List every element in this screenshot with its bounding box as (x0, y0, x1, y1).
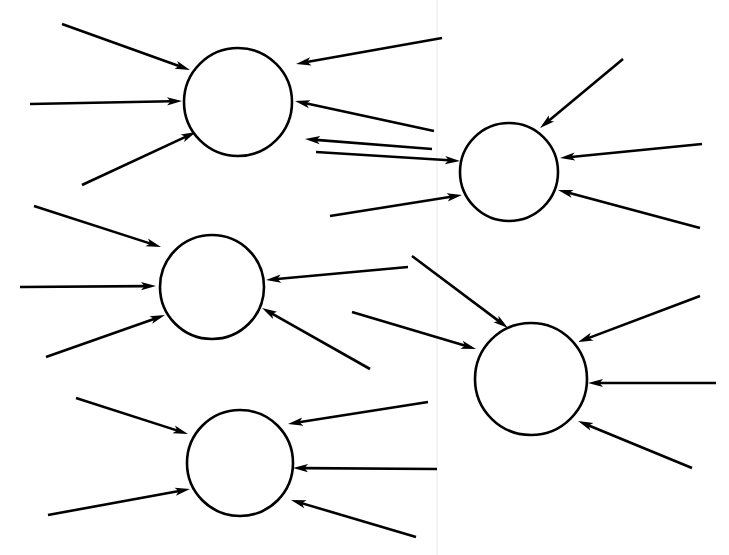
arrow-shaft (30, 101, 171, 104)
arrow-a15 (266, 267, 408, 283)
arrow-a7 (540, 59, 623, 128)
arrow-shaft (299, 402, 428, 422)
arrow-shaft (82, 137, 186, 185)
arrow-a10 (330, 193, 462, 216)
arrow-a12 (34, 206, 161, 247)
node-arrow-diagram (0, 0, 729, 555)
arrow-a25 (293, 464, 437, 472)
arrow-shaft (306, 103, 434, 131)
arrow-a19 (578, 296, 700, 342)
arrow-a24 (288, 402, 428, 426)
arrow-a16 (262, 308, 370, 369)
arrow-shaft (302, 503, 416, 537)
arrow-a17 (412, 256, 508, 328)
arrow-shaft (316, 152, 449, 160)
arrow-a1 (62, 24, 190, 70)
arrow-shaft (46, 319, 155, 357)
arrow-layer (20, 24, 716, 537)
node-circle-node-2 (460, 123, 558, 221)
arrow-shaft (412, 256, 499, 321)
arrow-shaft (34, 206, 151, 244)
node-circle-node-5 (187, 410, 293, 516)
arrow-shaft (48, 491, 179, 515)
arrow-shaft (20, 286, 145, 287)
node-circle-node-1 (184, 48, 292, 156)
arrow-head (262, 308, 277, 319)
arrow-shaft (330, 197, 451, 216)
arrow-shaft (548, 59, 623, 121)
node-circle-node-3 (160, 235, 264, 339)
arrow-a21 (578, 421, 692, 468)
arrow-shaft (272, 313, 370, 369)
arrow-a23 (48, 488, 190, 515)
arrow-a4 (296, 38, 442, 65)
arrow-shaft (569, 193, 700, 228)
arrow-a3 (82, 132, 196, 185)
arrow-a6 (305, 136, 432, 149)
node-circle-node-4 (475, 323, 587, 435)
arrow-a14 (46, 315, 165, 357)
arrow-shaft (307, 38, 442, 62)
arrow-a8 (316, 152, 460, 164)
arrow-a11 (558, 190, 700, 228)
arrow-shaft (277, 267, 408, 279)
arrow-a13 (20, 282, 156, 290)
diagram-page (0, 0, 729, 555)
arrow-shaft (76, 398, 178, 431)
arrow-shaft (571, 144, 702, 157)
arrow-a18 (352, 312, 476, 349)
arrow-a26 (291, 500, 416, 537)
arrow-a5 (295, 100, 434, 131)
arrow-a9 (560, 144, 702, 161)
arrow-a22 (76, 398, 188, 434)
arrow-shaft (304, 468, 437, 469)
arrow-shaft (316, 140, 432, 149)
arrow-shaft (588, 296, 700, 338)
arrow-a20 (588, 379, 716, 387)
arrow-a2 (30, 97, 182, 105)
arrow-shaft (588, 425, 692, 468)
arrow-shaft (352, 312, 465, 346)
arrow-shaft (62, 24, 180, 66)
